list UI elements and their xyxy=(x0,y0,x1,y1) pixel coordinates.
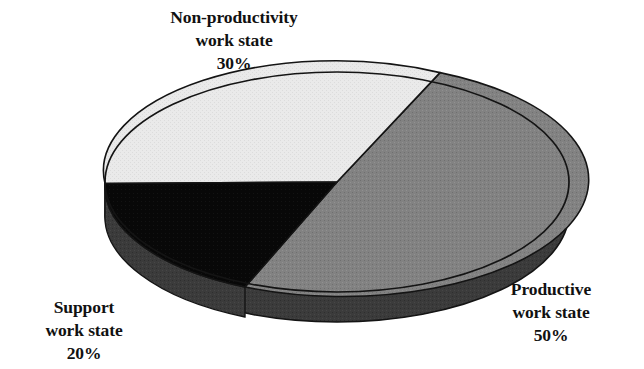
pie-chart: Non-productivity work state 30% Producti… xyxy=(0,0,644,369)
slice-label-productive: Productive work state 50% xyxy=(466,278,636,346)
slice-label-support-value: 20% xyxy=(4,342,164,365)
slice-label-support-line2: work state xyxy=(4,319,164,342)
slice-label-support-line1: Support xyxy=(4,296,164,319)
slice-label-nonproductivity-line1: Non-productivity xyxy=(128,6,340,29)
slice-label-productive-value: 50% xyxy=(466,324,636,347)
slice-label-nonproductivity-line2: work state xyxy=(128,29,340,52)
slice-label-nonproductivity: Non-productivity work state 30% xyxy=(128,6,340,74)
slice-label-productive-line2: work state xyxy=(466,301,636,324)
slice-label-nonproductivity-value: 30% xyxy=(128,52,340,75)
slice-label-support: Support work state 20% xyxy=(4,296,164,364)
slice-label-productive-line1: Productive xyxy=(466,278,636,301)
